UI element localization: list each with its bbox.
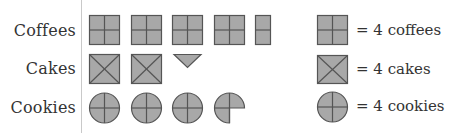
coffee-icon [132, 16, 162, 45]
legend-cookies-text: = 4 cookies [356, 97, 445, 115]
cake-icon [132, 55, 162, 84]
cookie-icon [90, 93, 120, 123]
legend-coffees-text: = 4 coffees [356, 21, 441, 39]
legend-cookie-icon [318, 92, 348, 122]
legend-cakes-text: = 4 cakes [356, 60, 431, 78]
cookie-icon [132, 93, 162, 123]
cake-icon [90, 55, 120, 84]
cake-quarter-icon [174, 55, 201, 68]
cookie-icon [173, 93, 203, 123]
legend-coffee-icon [318, 16, 348, 45]
coffee-icon [90, 16, 120, 45]
cookie-three-quarter-icon [215, 93, 245, 123]
legend-cake-icon [318, 56, 348, 84]
coffee-icon [215, 16, 245, 45]
coffee-half-icon [256, 16, 271, 45]
coffee-icon [173, 16, 203, 45]
